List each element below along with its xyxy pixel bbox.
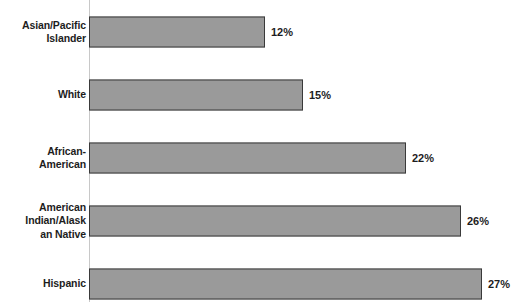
value-label-african-american: 22%: [412, 152, 434, 164]
value-label-asian-pacific-islander: 12%: [271, 26, 293, 38]
bar-american-indian-alaskan-native[interactable]: [89, 205, 461, 236]
bar-asian-pacific-islander[interactable]: [89, 16, 265, 47]
category-label-hispanic: Hispanic: [0, 277, 86, 291]
value-label-american-indian-alaskan-native: 26%: [467, 215, 489, 227]
bar-row: Asian/Pacific Islander 12%: [0, 0, 514, 63]
plot-area: Asian/Pacific Islander 12% White 15% Afr…: [0, 0, 514, 302]
bar-white[interactable]: [89, 79, 303, 110]
category-label-white: White: [0, 88, 86, 102]
category-label-african-american: African- American: [0, 144, 86, 171]
bar-hispanic[interactable]: [89, 268, 482, 299]
value-label-hispanic: 27%: [488, 278, 510, 290]
value-label-white: 15%: [309, 89, 331, 101]
category-label-asian-pacific-islander: Asian/Pacific Islander: [0, 18, 86, 45]
bar-african-american[interactable]: [89, 142, 406, 173]
bar-chart: Asian/Pacific Islander 12% White 15% Afr…: [0, 0, 514, 302]
bar-row: White 15%: [0, 63, 514, 126]
bar-row: Hispanic 27%: [0, 252, 514, 302]
bar-row: American Indian/Alask an Native 26%: [0, 189, 514, 252]
bar-row: African- American 22%: [0, 126, 514, 189]
category-label-american-indian-alaskan-native: American Indian/Alask an Native: [0, 200, 86, 241]
